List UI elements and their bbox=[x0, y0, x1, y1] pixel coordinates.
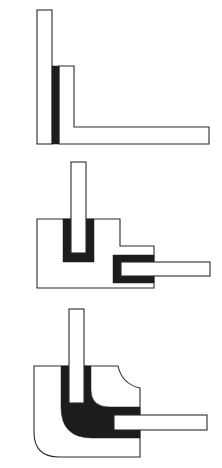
joint-3 bbox=[34, 309, 207, 457]
joint-2-vertical-plate bbox=[71, 162, 86, 253]
joint-1-vertical-plate bbox=[37, 10, 52, 144]
joint-2 bbox=[37, 162, 210, 288]
joint-1-bond-layer bbox=[52, 66, 59, 144]
joint-2-horizontal-plate bbox=[121, 262, 210, 276]
joint-3-vertical-plate bbox=[69, 309, 84, 403]
joint-1-l-member bbox=[59, 66, 209, 144]
diagram-canvas bbox=[0, 0, 222, 468]
joint-3-horizontal-plate bbox=[114, 415, 207, 430]
joint-1 bbox=[37, 10, 209, 144]
